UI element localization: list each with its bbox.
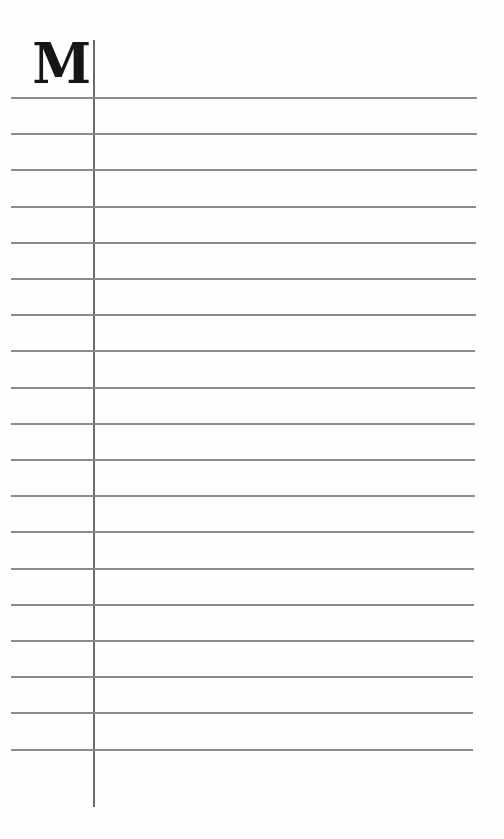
ruled-line — [11, 604, 474, 606]
ruled-line — [11, 133, 477, 135]
ruled-line — [11, 423, 475, 425]
ruled-line — [11, 640, 474, 642]
ruled-line — [11, 169, 477, 171]
ruled-line — [11, 568, 474, 570]
lined-page: M — [0, 0, 504, 839]
ruled-line — [11, 459, 475, 461]
ruled-line — [11, 531, 474, 533]
ruled-line — [11, 314, 476, 316]
ruled-line — [11, 97, 477, 99]
ruled-line — [11, 242, 476, 244]
ruled-line — [11, 206, 476, 208]
ruled-line — [11, 676, 473, 678]
ruled-line — [11, 350, 475, 352]
index-letter: M — [32, 30, 80, 96]
ruled-line — [11, 387, 475, 389]
ruled-line — [11, 495, 475, 497]
ruled-line — [11, 712, 473, 714]
ruled-line — [11, 749, 473, 751]
ruled-line — [11, 278, 476, 280]
